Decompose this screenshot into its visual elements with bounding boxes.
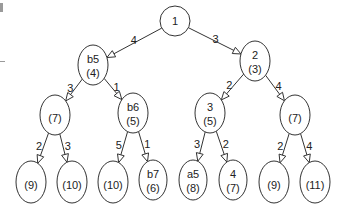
node-ellipse — [78, 45, 108, 85]
node-label: 2 — [252, 49, 258, 61]
tree-node: (9) — [16, 161, 46, 203]
edge-weight-label: 1 — [144, 138, 150, 150]
edge: 5 — [116, 132, 128, 163]
edge-weight-label: 4 — [131, 34, 137, 46]
tree-node: (11) — [300, 161, 330, 203]
node-value: (5) — [126, 115, 139, 127]
edge-weight-label: 3 — [65, 140, 71, 152]
tree-node: b5(4) — [78, 45, 108, 85]
node-ellipse — [195, 93, 225, 133]
tree-node: (7) — [280, 95, 310, 135]
edge: 2 — [221, 74, 243, 100]
nodes-layer: 1b5(4)2(3)(7)b6(5)3(5)(7)(9)(10)(10)b7(6… — [16, 6, 330, 203]
arrow-head-icon — [142, 153, 149, 162]
edge-weight-label: 3 — [67, 82, 73, 94]
scan-artifact-mid — [0, 61, 5, 62]
edge-weight-label: 1 — [114, 81, 120, 93]
arrow-head-icon — [196, 153, 203, 162]
edge-weight-label: 3 — [212, 33, 218, 45]
tree-node: a5(8) — [179, 160, 207, 200]
edge-weight-label: 3 — [194, 138, 200, 150]
node-label: 4 — [230, 168, 236, 180]
arrow-head-icon — [304, 154, 311, 163]
edge-weight-label: 2 — [226, 79, 232, 91]
edge: 3 — [66, 79, 83, 101]
tree-node: (9) — [259, 161, 289, 203]
tree-node: 4(7) — [219, 160, 247, 200]
node-label: b6 — [127, 101, 139, 113]
tree-node: (10) — [98, 161, 128, 203]
node-value: (7) — [48, 112, 61, 124]
node-value: (6) — [146, 182, 159, 194]
tree-diagram: 43312423513224 1b5(4)2(3)(7)b6(5)3(5)(7)… — [0, 0, 349, 214]
node-value: (9) — [267, 179, 280, 191]
edge: 3 — [60, 134, 71, 162]
edge: 1 — [104, 78, 122, 99]
tree-node: (10) — [57, 161, 87, 203]
scan-artifact-top — [0, 3, 3, 12]
edge: 3 — [188, 28, 241, 54]
node-label: b5 — [87, 53, 99, 65]
edge-weight-label: 2 — [223, 138, 229, 150]
edge-weight-label: 2 — [277, 140, 283, 152]
edge: 2 — [277, 133, 289, 162]
edge-weight-label: 2 — [36, 140, 42, 152]
tree-node: 3(5) — [195, 93, 225, 133]
node-value: (10) — [103, 179, 123, 191]
arrow-head-icon — [62, 154, 69, 163]
edge: 4 — [266, 75, 285, 101]
edge: 4 — [301, 134, 313, 163]
node-label: a5 — [187, 168, 199, 180]
arrow-head-icon — [277, 92, 285, 101]
tree-node: b7(6) — [139, 160, 167, 200]
arrow-head-icon — [279, 154, 286, 163]
node-value: (7) — [226, 182, 239, 194]
node-label: 1 — [172, 15, 178, 27]
edge: 2 — [216, 131, 229, 162]
node-ellipse — [219, 160, 247, 200]
node-label: 3 — [207, 101, 213, 113]
node-value: (11) — [306, 179, 325, 191]
node-value: (4) — [86, 67, 99, 79]
edge: 4 — [107, 28, 162, 57]
node-ellipse — [179, 160, 207, 200]
arrow-head-icon — [107, 51, 116, 58]
node-value: (3) — [248, 63, 261, 75]
node-ellipse — [118, 93, 148, 133]
node-value: (10) — [62, 179, 82, 191]
edge: 1 — [139, 132, 151, 162]
node-ellipse — [240, 41, 270, 81]
node-value: (7) — [288, 112, 301, 124]
edge-weight-label: 5 — [116, 139, 122, 151]
node-value: (5) — [203, 115, 216, 127]
tree-node: (7) — [40, 95, 70, 135]
tree-node: 1 — [160, 6, 190, 36]
edge: 2 — [36, 133, 49, 163]
node-value: (9) — [24, 179, 37, 191]
arrow-head-icon — [118, 154, 125, 163]
edge-weight-label: 4 — [275, 80, 281, 92]
arrow-head-icon — [221, 153, 228, 162]
node-ellipse — [139, 160, 167, 200]
tree-node: 2(3) — [240, 41, 270, 81]
arrow-head-icon — [232, 47, 241, 54]
arrow-head-icon — [37, 155, 44, 164]
edge: 3 — [194, 132, 205, 161]
node-label: b7 — [147, 168, 159, 180]
tree-node: b6(5) — [118, 93, 148, 133]
edge-weight-label: 4 — [306, 140, 312, 152]
edges-layer: 43312423513224 — [36, 28, 312, 164]
node-value: (8) — [186, 182, 199, 194]
